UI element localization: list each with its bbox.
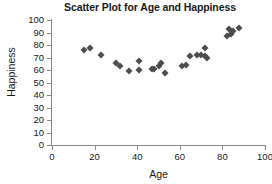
x-tick-label: 40: [122, 152, 152, 162]
data-point: [97, 51, 104, 58]
y-axis-title: Happiness: [5, 37, 17, 107]
x-tick-label: 80: [207, 152, 237, 162]
x-axis-line: [51, 145, 266, 146]
chart-title: Scatter Plot for Age and Happiness: [40, 1, 260, 13]
y-tick-mark: [47, 120, 51, 121]
y-tick-mark: [47, 95, 51, 96]
x-tick-mark: [265, 146, 266, 150]
y-tick-label: 0: [14, 140, 44, 150]
y-tick-label: 20: [14, 115, 44, 125]
y-tick-label: 60: [14, 65, 44, 75]
y-tick-label: 40: [14, 90, 44, 100]
x-tick-label: 20: [80, 152, 110, 162]
data-point: [125, 68, 132, 75]
y-tick-label: 70: [14, 53, 44, 63]
data-point: [202, 44, 209, 51]
y-tick-mark: [47, 133, 51, 134]
scatter-chart: Scatter Plot for Age and Happiness 01020…: [0, 0, 272, 184]
data-point: [161, 69, 168, 76]
x-tick-mark: [222, 146, 223, 150]
y-tick-mark: [47, 33, 51, 34]
x-tick-mark: [180, 146, 181, 150]
data-point: [136, 66, 143, 73]
x-axis-title: Age: [52, 168, 265, 180]
data-point: [236, 24, 243, 31]
y-tick-mark: [47, 108, 51, 109]
y-tick-mark: [47, 20, 51, 21]
y-tick-mark: [47, 145, 51, 146]
plot-area: [52, 20, 265, 145]
x-tick-mark: [52, 146, 53, 150]
x-tick-mark: [137, 146, 138, 150]
y-tick-mark: [47, 70, 51, 71]
data-point: [117, 63, 124, 70]
x-tick-label: 100: [250, 152, 272, 162]
y-tick-mark: [47, 58, 51, 59]
y-tick-label: 80: [14, 40, 44, 50]
y-tick-mark: [47, 83, 51, 84]
x-tick-mark: [95, 146, 96, 150]
data-point: [204, 54, 211, 61]
y-tick-label: 100: [14, 15, 44, 25]
data-point: [87, 44, 94, 51]
y-tick-label: 50: [14, 78, 44, 88]
x-tick-label: 0: [37, 152, 67, 162]
y-tick-mark: [47, 45, 51, 46]
y-tick-label: 30: [14, 103, 44, 113]
data-point: [136, 58, 143, 65]
x-tick-label: 60: [165, 152, 195, 162]
y-tick-label: 10: [14, 128, 44, 138]
y-tick-label: 90: [14, 28, 44, 38]
